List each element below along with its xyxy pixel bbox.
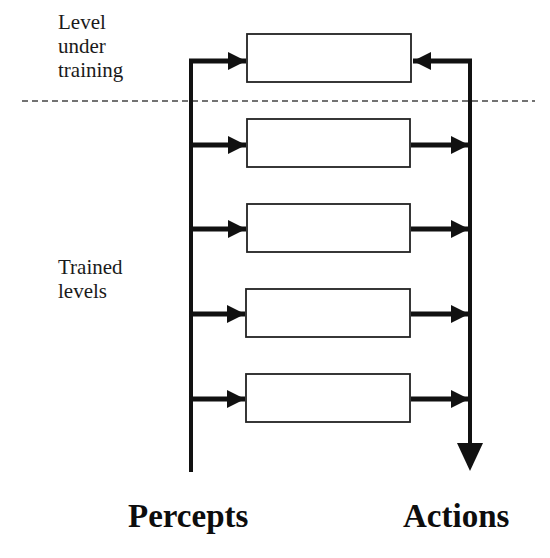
hierarchy-diagram bbox=[0, 0, 550, 558]
box-trained-level-4 bbox=[246, 374, 410, 422]
actions-down-arrow-icon bbox=[457, 443, 483, 471]
box-level-under-training bbox=[247, 34, 411, 82]
box-trained-level-3 bbox=[246, 289, 410, 337]
box-trained-level-1 bbox=[247, 119, 410, 167]
box-trained-level-2 bbox=[247, 204, 410, 252]
